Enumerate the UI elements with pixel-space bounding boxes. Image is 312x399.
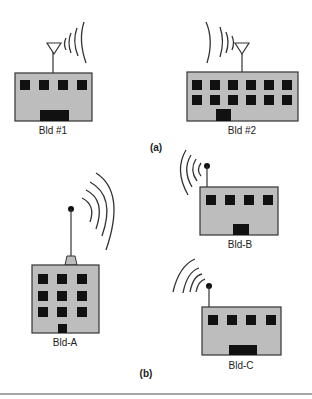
radio-waves-icon [82,173,114,250]
radio-waves-icon [180,150,201,195]
dish-antenna-icon [235,43,249,54]
panel-b-caption: (b) [140,368,153,379]
building-label: Bld-C [228,360,253,371]
dish-antenna-icon [47,43,61,54]
building-label: Bld #2 [228,125,257,136]
radio-waves-icon [173,259,205,293]
building-label: Bld-A [53,337,78,348]
radio-waves-icon [65,22,87,63]
building-label: Bld-B [228,239,253,250]
panel-a-caption: (a) [150,142,162,153]
building-bld1: Bld #1 [15,22,92,136]
mast-base [65,256,77,265]
building-blda: Bld-A [32,173,114,348]
radio-waves-icon [206,22,234,63]
building-bldb: Bld-B [180,150,278,250]
building-bldc: Bld-C [173,259,281,371]
diagram-canvas: Bld #1 Bld #2 (a) [0,0,312,399]
building-label: Bld #1 [39,125,68,136]
building-bld2: Bld #2 [187,22,298,136]
